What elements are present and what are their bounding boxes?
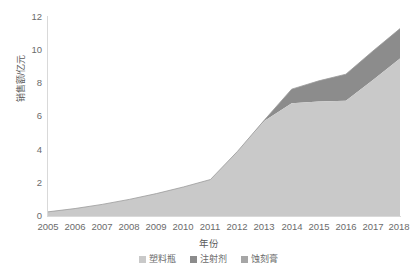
x-tick-2015: 2015 bbox=[308, 221, 329, 233]
x-axis-title: 年份 bbox=[0, 236, 417, 250]
x-axis-line bbox=[47, 216, 401, 217]
legend-swatch-icon-2 bbox=[241, 256, 248, 263]
area-chart: 销售额/亿元 12 10 8 6 4 2 0 2005 2006 2007 20… bbox=[0, 0, 417, 265]
x-tick-2018: 2018 bbox=[388, 221, 409, 233]
x-tick-2005: 2005 bbox=[37, 221, 58, 233]
area-series-svg bbox=[48, 17, 400, 216]
y-tick-8: 8 bbox=[37, 78, 42, 88]
y-tick-0: 0 bbox=[37, 211, 42, 221]
y-tick-2: 2 bbox=[37, 178, 42, 188]
y-axis-ticks: 12 10 8 6 4 2 0 bbox=[22, 0, 42, 225]
legend-swatch-icon-1 bbox=[190, 256, 197, 263]
x-tick-2013: 2013 bbox=[253, 221, 274, 233]
x-tick-2014: 2014 bbox=[281, 221, 302, 233]
y-tick-4: 4 bbox=[37, 145, 42, 155]
legend-label-1: 注射剂 bbox=[200, 254, 227, 264]
x-tick-2009: 2009 bbox=[145, 221, 166, 233]
legend-swatch-icon-0 bbox=[139, 256, 146, 263]
legend-label-2: 蚀刻膏 bbox=[251, 254, 278, 264]
x-tick-2011: 2011 bbox=[200, 221, 220, 233]
x-tick-2016: 2016 bbox=[335, 221, 356, 233]
y-tick-6: 6 bbox=[37, 111, 42, 121]
legend-item-2[interactable]: 蚀刻膏 bbox=[241, 254, 278, 264]
x-tick-2007: 2007 bbox=[91, 221, 112, 233]
chart-legend: 塑料瓶 注射剂 蚀刻膏 bbox=[0, 254, 417, 264]
x-tick-2010: 2010 bbox=[172, 221, 193, 233]
x-tick-2017: 2017 bbox=[362, 221, 383, 233]
plot-area bbox=[48, 17, 400, 216]
legend-label-0: 塑料瓶 bbox=[149, 254, 176, 264]
legend-item-1[interactable]: 注射剂 bbox=[190, 254, 227, 264]
legend-item-0[interactable]: 塑料瓶 bbox=[139, 254, 176, 264]
x-tick-2008: 2008 bbox=[118, 221, 139, 233]
x-axis-ticks: 2005 2006 2007 2008 2009 2010 2011 2012 … bbox=[0, 221, 417, 235]
x-tick-2006: 2006 bbox=[64, 221, 85, 233]
y-tick-10: 10 bbox=[31, 45, 42, 55]
x-tick-2012: 2012 bbox=[226, 221, 247, 233]
y-tick-12: 12 bbox=[31, 12, 42, 22]
